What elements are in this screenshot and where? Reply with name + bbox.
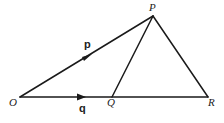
label-point-r: R bbox=[207, 96, 215, 108]
label-vector-p: p bbox=[84, 38, 91, 50]
label-point-q: Q bbox=[107, 96, 115, 108]
vector-diagram: P O Q R p q bbox=[0, 0, 224, 123]
edge-pr bbox=[153, 16, 208, 97]
label-point-o: O bbox=[9, 96, 17, 108]
arrow-q-icon bbox=[77, 94, 86, 101]
label-point-p: P bbox=[148, 1, 156, 13]
arrow-p-icon bbox=[82, 54, 92, 61]
label-vector-q: q bbox=[79, 102, 86, 114]
